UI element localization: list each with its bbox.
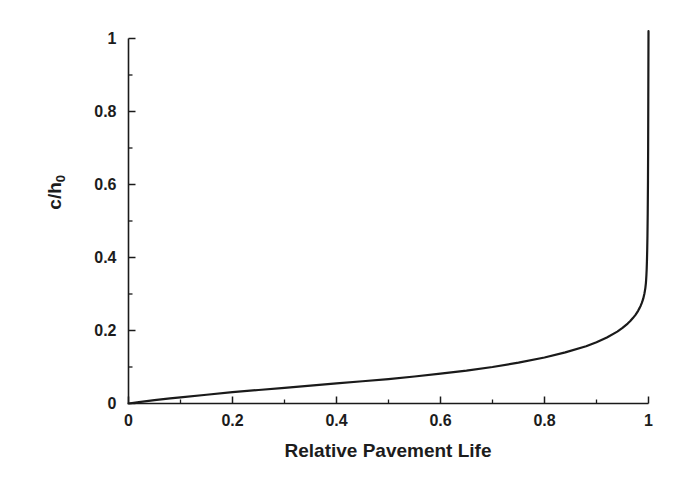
y-tick-label: 0 <box>108 395 117 413</box>
y-axis-title-subscript: 0 <box>53 175 68 182</box>
axis-ticks <box>129 39 649 404</box>
x-tick-label: 1 <box>644 412 653 430</box>
y-tick-label: 0.4 <box>94 249 116 267</box>
data-series-line <box>129 31 649 403</box>
chart-figure: 00.20.40.60.81 00.20.40.60.81 Relative P… <box>0 0 693 488</box>
y-axis-title: c/h0 <box>44 175 66 210</box>
y-tick-label: 0.2 <box>94 322 116 340</box>
axis-spines <box>129 39 649 404</box>
y-tick-label: 0.8 <box>94 103 116 121</box>
x-tick-label: 0.6 <box>429 412 451 430</box>
y-axis-title-base: c/h <box>44 182 65 209</box>
y-tick-label: 0.6 <box>94 176 116 194</box>
data-series-group <box>129 31 649 403</box>
x-tick-label: 0 <box>124 412 133 430</box>
y-tick-label: 1 <box>108 30 117 48</box>
x-axis-title: Relative Pavement Life <box>285 440 492 462</box>
x-tick-label: 0.8 <box>533 412 555 430</box>
x-tick-label: 0.2 <box>221 412 243 430</box>
x-tick-label: 0.4 <box>325 412 347 430</box>
